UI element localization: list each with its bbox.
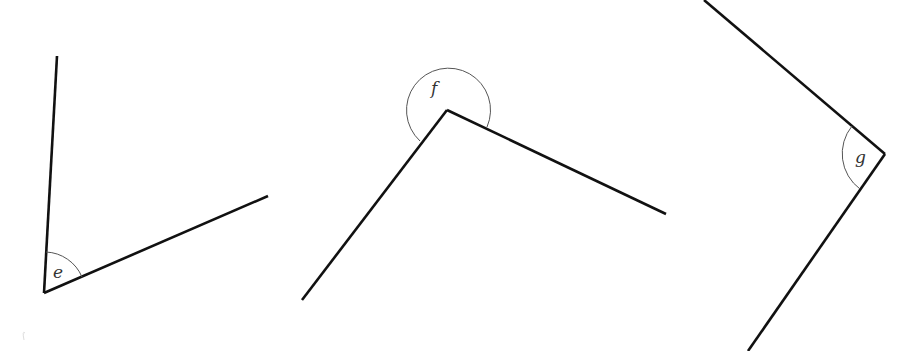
angle-f-label: f (429, 78, 440, 98)
angle-f-ray-left (302, 110, 447, 300)
angle-g-ray-down (748, 154, 885, 351)
angle-e: e (44, 56, 268, 293)
angle-f: f (302, 68, 666, 300)
angle-e-label: e (53, 262, 63, 282)
angle-e-arc (46, 252, 82, 277)
angle-g-ray-up (704, 0, 885, 154)
scan-speck (23, 332, 25, 340)
angles-diagram: e f g (0, 0, 917, 351)
angle-f-arc (407, 68, 491, 141)
angle-f-ray-right (447, 110, 666, 214)
angle-g-label: g (855, 147, 866, 167)
angle-e-ray-up (44, 56, 57, 293)
angle-g: g (704, 0, 885, 351)
angle-e-ray-right (44, 196, 268, 293)
